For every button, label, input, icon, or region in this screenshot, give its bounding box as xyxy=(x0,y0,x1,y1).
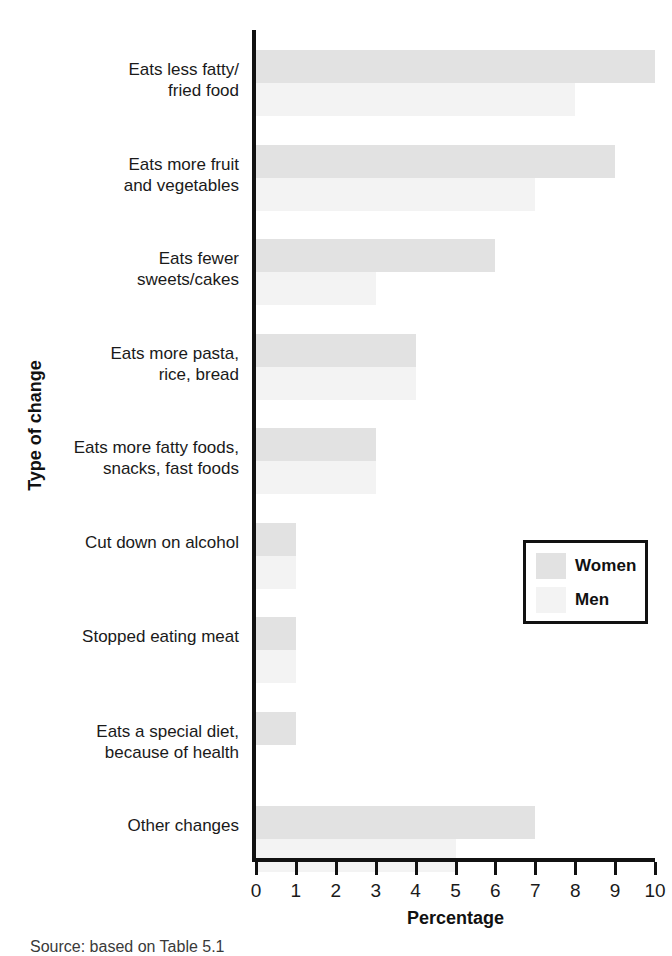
x-axis-spine xyxy=(252,858,655,862)
bar-group xyxy=(256,617,655,683)
bar-women xyxy=(256,50,655,83)
plot-area xyxy=(256,30,655,858)
bar-men xyxy=(256,83,575,116)
legend-swatch-women xyxy=(536,553,566,579)
x-axis-tick-label: 8 xyxy=(555,880,595,902)
bar-women xyxy=(256,712,296,745)
legend-swatch-men xyxy=(536,587,566,613)
y-axis-title: Type of change xyxy=(25,346,46,506)
x-axis-tick xyxy=(255,862,258,875)
x-axis-tick xyxy=(335,862,338,875)
x-axis-tick xyxy=(375,862,378,875)
x-axis-tick xyxy=(574,862,577,875)
bar-women xyxy=(256,428,376,461)
x-axis-tick-label: 1 xyxy=(276,880,316,902)
bar-men xyxy=(256,178,535,211)
x-axis-tick-label: 0 xyxy=(236,880,276,902)
bar-men xyxy=(256,839,456,872)
bar-group xyxy=(256,50,655,116)
bar-men xyxy=(256,367,416,400)
bar-women xyxy=(256,806,535,839)
x-axis-tick-label: 6 xyxy=(475,880,515,902)
legend-item-men: Men xyxy=(536,585,609,615)
bar-men xyxy=(256,650,296,683)
x-axis-tick xyxy=(534,862,537,875)
x-axis-tick-label: 4 xyxy=(396,880,436,902)
bar-men xyxy=(256,272,376,305)
x-axis-tick xyxy=(654,862,657,875)
legend-item-women: Women xyxy=(536,551,637,581)
x-axis-tick xyxy=(415,862,418,875)
bar-women xyxy=(256,617,296,650)
category-label: Eats a special diet, because of health xyxy=(0,721,239,763)
bar-men xyxy=(256,461,376,494)
bar-men xyxy=(256,556,296,589)
source-caption: Source: based on Table 5.1 xyxy=(30,938,225,956)
bar-women xyxy=(256,239,495,272)
x-axis-tick-label: 5 xyxy=(436,880,476,902)
legend: Women Men xyxy=(523,540,648,624)
x-axis-tick-label: 10 xyxy=(635,880,672,902)
legend-label-men: Men xyxy=(575,590,609,610)
x-axis-tick-label: 3 xyxy=(356,880,396,902)
bar-group xyxy=(256,712,655,778)
bar-women xyxy=(256,145,615,178)
category-label: Stopped eating meat xyxy=(0,626,239,647)
bar-women xyxy=(256,334,416,367)
x-axis-tick-label: 9 xyxy=(595,880,635,902)
x-axis-title: Percentage xyxy=(256,908,655,929)
bar-group xyxy=(256,334,655,400)
category-label: Other changes xyxy=(0,815,239,836)
bar-group xyxy=(256,239,655,305)
category-label: Eats more fruit and vegetables xyxy=(0,154,239,196)
x-axis-tick xyxy=(494,862,497,875)
category-label: Cut down on alcohol xyxy=(0,532,239,553)
bar-women xyxy=(256,523,296,556)
x-axis-tick-label: 2 xyxy=(316,880,356,902)
bar-group xyxy=(256,145,655,211)
bar-group xyxy=(256,428,655,494)
x-axis-tick-label: 7 xyxy=(515,880,555,902)
x-axis-tick xyxy=(295,862,298,875)
legend-label-women: Women xyxy=(575,556,637,576)
x-axis-tick xyxy=(455,862,458,875)
category-label: Eats fewer sweets/cakes xyxy=(0,248,239,290)
category-label: Eats less fatty/ fried food xyxy=(0,59,239,101)
x-axis-tick xyxy=(614,862,617,875)
